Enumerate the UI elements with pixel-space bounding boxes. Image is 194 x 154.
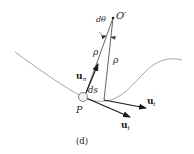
label-ds: ds xyxy=(88,85,98,95)
label-rho-left: ρ xyxy=(92,47,99,57)
label-un-sub: n xyxy=(83,75,87,82)
label-dtheta: dθ xyxy=(96,15,106,24)
label-point: P xyxy=(75,104,83,115)
label-utp-sub: t xyxy=(153,100,156,107)
label-rho-right: ρ xyxy=(112,55,119,65)
label-center: O′ xyxy=(116,10,127,21)
figure-caption: (d) xyxy=(76,136,88,146)
label-ut: ut xyxy=(121,120,131,131)
label-ut-sub: t xyxy=(128,124,131,131)
dtheta-arc-icon-right xyxy=(111,37,116,38)
curvature-diagram: O′ dθ ρ ρ ds P un ut u′t (d) xyxy=(0,0,194,154)
utp-arrow-icon xyxy=(104,100,146,108)
label-un: un xyxy=(76,71,87,82)
center-point xyxy=(112,17,115,20)
point-p-marker xyxy=(79,93,88,102)
dtheta-arc-icon xyxy=(99,32,106,36)
label-utp: u′t xyxy=(147,94,156,107)
